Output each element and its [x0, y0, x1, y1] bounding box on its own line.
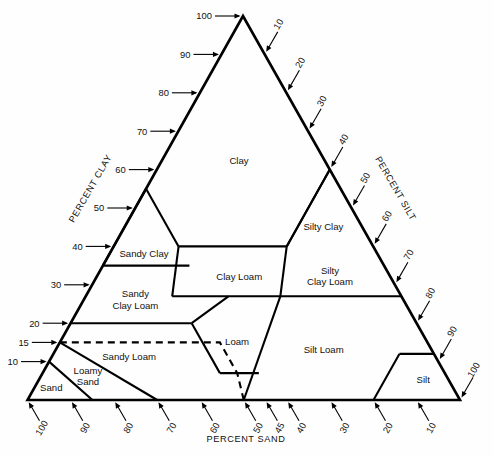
region-label-sandy-clay-loam: SandyClay Loam	[112, 288, 158, 311]
boundary-silt-loam-left-edge	[244, 296, 281, 400]
tick-label-clay-100: 100	[196, 10, 212, 21]
boundary-silt-left-edge	[374, 354, 400, 400]
tick-label-silt-30: 30	[314, 94, 329, 109]
tick-label-sand-90: 90	[77, 420, 92, 435]
tick-silt-80	[420, 301, 430, 318]
region-label-text: Loamy	[74, 365, 103, 376]
region-label-text: Clay Loam	[112, 300, 158, 311]
tick-arrow-clay-40	[105, 244, 111, 249]
tick-label-clay-50: 50	[94, 202, 104, 213]
ternary-diagram-canvas: 1009080706050403020151010203040506070809…	[0, 0, 494, 457]
region-label-loamy-sand: LoamySand	[74, 365, 103, 388]
tick-label-silt-100: 100	[465, 360, 482, 379]
boundary-sandy-clay-top-edge	[146, 189, 179, 247]
axis-title-percent-sand: PERCENT SAND	[206, 434, 285, 444]
region-label-silt-loam: Silt Loam	[304, 344, 344, 355]
tick-label-silt-90: 90	[444, 324, 459, 339]
tick-label-silt-50: 50	[358, 170, 373, 185]
tick-arrow-clay-30	[84, 282, 90, 287]
tick-label-silt-20: 20	[292, 55, 307, 70]
region-label-clay: Clay	[229, 155, 248, 166]
tick-arrow-clay-80	[191, 90, 197, 95]
tick-silt-70	[398, 262, 408, 279]
tick-arrow-clay-50	[127, 205, 133, 210]
tick-arrow-clay-60	[148, 167, 154, 172]
region-label-text: Silt	[417, 374, 431, 385]
tick-label-sand-60: 60	[207, 420, 222, 435]
tick-label-clay-60: 60	[115, 164, 125, 175]
region-label-text: Loam	[225, 336, 249, 347]
boundary-silty-clay-left-edge	[287, 170, 330, 247]
tick-label-sand-70: 70	[164, 420, 179, 435]
tick-label-silt-10: 10	[271, 17, 286, 32]
tick-arrow-clay-70	[170, 129, 176, 134]
region-label-text: Silty Clay	[303, 221, 343, 232]
boundary-loam-left-edge	[192, 323, 220, 373]
region-label-text: Sandy	[122, 288, 149, 299]
tick-label-silt-60: 60	[379, 209, 394, 224]
region-label-text: Sand	[40, 382, 62, 393]
tick-label-sand-30: 30	[337, 420, 352, 435]
boundary-sandy-clay-loam-right	[192, 296, 229, 323]
tick-silt-50	[355, 185, 365, 202]
tick-label-silt-80: 80	[423, 286, 438, 301]
tick-arrow-clay-100	[235, 13, 241, 18]
tick-label-sand-50: 50	[250, 420, 265, 435]
axis-title-percent-silt: PERCENT SILT	[373, 155, 418, 223]
tick-label-clay-70: 70	[137, 126, 147, 137]
region-label-text: Sand	[77, 376, 99, 387]
region-label-text: Clay	[229, 155, 248, 166]
region-label-silty-clay-loam: SiltyClay Loam	[307, 265, 353, 288]
tick-arrow-clay-10	[41, 359, 47, 364]
tick-label-sand-20: 20	[380, 420, 395, 435]
region-label-silt: Silt	[417, 374, 431, 385]
region-label-loam: Loam	[225, 336, 249, 347]
tick-label-silt-70: 70	[401, 247, 416, 262]
tick-label-clay-10: 10	[8, 356, 18, 367]
region-label-clay-loam: Clay Loam	[216, 271, 262, 282]
tick-label-clay-15: 15	[18, 337, 28, 348]
tick-label-sand-100: 100	[33, 418, 50, 437]
region-label-sandy-loam: Sandy Loam	[102, 351, 156, 362]
region-label-sand: Sand	[40, 382, 62, 393]
region-label-text: Sandy Loam	[102, 351, 156, 362]
tick-label-sand-45: 45	[272, 420, 287, 435]
region-label-text: Sandy Clay	[119, 248, 168, 259]
boundary-clay-loam-left-edge	[172, 246, 178, 296]
tick-arrow-clay-90	[213, 52, 219, 57]
tick-arrow-clay-20	[62, 321, 68, 326]
region-label-text: Clay Loam	[307, 276, 353, 287]
region-label-text: Silt Loam	[304, 344, 344, 355]
region-label-sandy-clay: Sandy Clay	[119, 248, 168, 259]
tick-label-clay-40: 40	[72, 241, 82, 252]
tick-label-clay-90: 90	[180, 49, 190, 60]
tick-label-sand-80: 80	[121, 420, 136, 435]
tick-silt-60	[376, 224, 386, 241]
tick-label-sand-40: 40	[294, 420, 309, 435]
region-label-text: Clay Loam	[216, 271, 262, 282]
tick-silt-100	[463, 377, 473, 394]
boundary-silty-clay-loam-left-edge	[280, 246, 286, 296]
tick-silt-90	[441, 339, 451, 356]
tick-label-sand-10: 10	[423, 420, 438, 435]
soil-texture-triangle-figure: 1009080706050403020151010203040506070809…	[0, 0, 494, 457]
tick-label-clay-30: 30	[51, 279, 61, 290]
tick-silt-10	[268, 32, 278, 49]
region-label-text: Silty	[321, 265, 339, 276]
tick-arrow-clay-15	[51, 340, 57, 345]
tick-label-clay-20: 20	[29, 318, 39, 329]
region-label-silty-clay: Silty Clay	[303, 221, 343, 232]
tick-label-clay-80: 80	[158, 87, 168, 98]
region-boundaries-layer	[49, 170, 434, 400]
tick-silt-30	[311, 109, 321, 126]
axis-title-percent-clay: PERCENT CLAY	[67, 153, 114, 225]
tick-label-silt-40: 40	[336, 132, 351, 147]
